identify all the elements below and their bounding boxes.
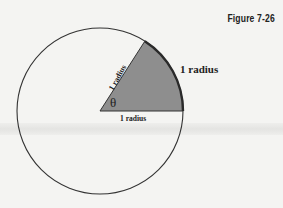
radian-diagram: θ 1 radius 1 radius 1 radius <box>0 0 283 208</box>
arc-label: 1 radius <box>180 63 219 75</box>
angle-symbol: θ <box>110 95 116 110</box>
base-label: 1 radius <box>120 114 146 123</box>
